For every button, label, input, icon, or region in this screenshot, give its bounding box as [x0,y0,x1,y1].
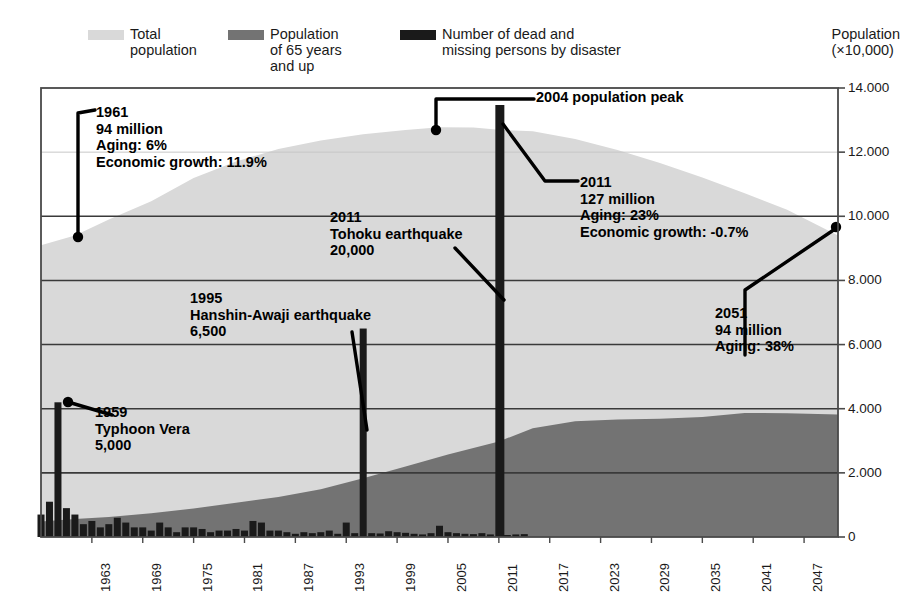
x-tick-label-2005: 2005 [454,563,469,592]
y-tick-label-14000: 14.000 [848,81,889,94]
annotation-2011-text: 2011 127 million Aging: 23% Economic gro… [580,174,748,240]
x-tick-label-2041: 2041 [759,563,774,592]
x-tick-label-2047: 2047 [810,563,825,592]
x-tick-label-2029: 2029 [657,563,672,592]
y-tick-label-10000: 10.000 [848,209,889,222]
x-tick-label-2017: 2017 [556,563,571,592]
x-tick-label-1975: 1975 [200,563,215,592]
y-tick-label-0: 0 [848,530,856,543]
x-tick-label-1993: 1993 [352,563,367,592]
x-tick-label-2023: 2023 [607,563,622,592]
annotation-2004-text: 2004 population peak [536,89,683,106]
y-tick-label-2000: 2.000 [848,466,882,479]
annotation-vera-text: 1959 Typhoon Vera 5,000 [95,404,190,454]
y-tick-label-6000: 6.000 [848,338,882,351]
annotation-tohoku-text: 2011 Tohoku earthquake 20,000 [330,209,463,259]
annotation-1961-text: 1961 94 million Aging: 6% Economic growt… [96,104,267,170]
annotation-2051-text: 2051 94 million Aging: 38% [715,305,794,355]
x-tick-label-1963: 1963 [98,563,113,592]
x-tick-label-2011: 2011 [505,564,520,592]
y-tick-label-4000: 4.000 [848,402,882,415]
x-tick-label-2035: 2035 [708,563,723,592]
x-tick-label-1981: 1981 [250,563,265,592]
x-tick-label-1999: 1999 [403,563,418,592]
annotation-hanshin-text: 1995 Hanshin-Awaji earthquake 6,500 [190,290,371,340]
chart-canvas [0,0,918,603]
chart-page: Total population Population of 65 years … [0,0,918,603]
plot-area: 02.0004.0006.0008.00010.00012.00014.000 … [0,0,918,603]
x-tick-label-1969: 1969 [149,563,164,592]
x-tick-label-1987: 1987 [301,563,316,592]
y-tick-label-12000: 12.000 [848,145,889,158]
y-tick-label-8000: 8.000 [848,273,882,286]
